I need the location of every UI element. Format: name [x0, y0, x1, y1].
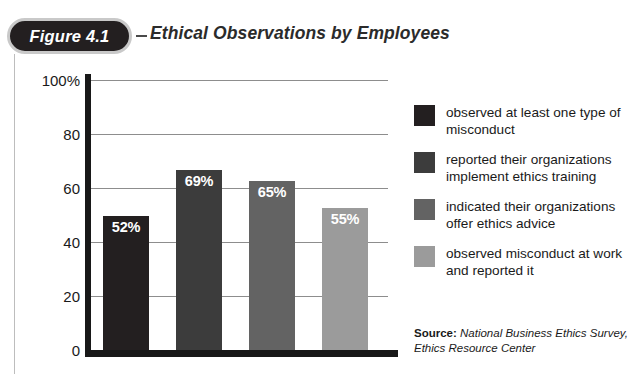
- y-axis-line: [85, 74, 91, 356]
- bar: 65%: [249, 181, 295, 357]
- figure-number-label: Figure 4.1: [30, 27, 110, 46]
- bar-chart: 020406080100% 52%69%65%55%: [30, 74, 402, 362]
- x-axis-baseline: [85, 350, 398, 357]
- y-axis-tick-label: 60: [0, 180, 80, 197]
- legend-swatch-icon: [414, 199, 435, 220]
- bar-value-label: 52%: [103, 219, 149, 235]
- figure-number-badge: Figure 4.1: [7, 18, 132, 54]
- legend-item-label: observed misconduct at work and reported…: [446, 245, 629, 279]
- y-axis-tick-label: 80: [0, 126, 80, 143]
- y-axis-tick-label: 0: [0, 342, 80, 359]
- bar-value-label: 69%: [176, 173, 222, 189]
- legend-swatch-icon: [414, 246, 435, 267]
- bar: 69%: [176, 170, 222, 356]
- legend-item-label: observed at least one type of misconduct: [446, 104, 629, 138]
- legend-item: observed at least one type of misconduct: [414, 104, 629, 138]
- y-axis-tick-label: 20: [0, 288, 80, 305]
- bar: 55%: [322, 208, 368, 357]
- gridline: [91, 134, 388, 135]
- legend-item-label: reported their organizations implement e…: [446, 151, 629, 185]
- source-label: Source:: [414, 327, 457, 339]
- legend-swatch-icon: [414, 152, 435, 173]
- left-vertical-rule: [14, 54, 15, 374]
- y-axis-tick-label: 100%: [0, 72, 80, 89]
- title-dash-separator: [136, 35, 147, 37]
- page-title: Ethical Observations by Employees: [150, 23, 450, 44]
- source-note: Source: National Business Ethics Survey,…: [414, 326, 632, 355]
- bar-value-label: 65%: [249, 184, 295, 200]
- chart-legend: observed at least one type of misconduct…: [414, 104, 629, 292]
- legend-item-label: indicated their organizations offer ethi…: [446, 198, 629, 232]
- gridline: [91, 188, 388, 189]
- bar-value-label: 55%: [322, 211, 368, 227]
- gridline: [91, 80, 388, 81]
- legend-item: indicated their organizations offer ethi…: [414, 198, 629, 232]
- figure-header: Figure 4.1 Ethical Observations by Emplo…: [0, 18, 636, 62]
- bar: 52%: [103, 216, 149, 356]
- legend-swatch-icon: [414, 105, 435, 126]
- legend-item: reported their organizations implement e…: [414, 151, 629, 185]
- y-axis-tick-label: 40: [0, 234, 80, 251]
- legend-item: observed misconduct at work and reported…: [414, 245, 629, 279]
